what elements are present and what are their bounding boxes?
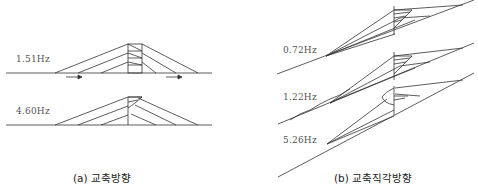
mode-shape-diagram [0,0,478,191]
caption-a: (a) 교축방향 [73,170,131,185]
mode-shape-b2 [278,43,474,124]
frequency-label-a2: 4.60Hz [16,106,50,116]
frequency-label-b2: 1.22Hz [283,92,317,102]
frequency-label-a1: 1.51Hz [16,54,50,64]
mode-shape-b1 [277,0,474,74]
frequency-label-b1: 0.72Hz [283,45,317,55]
caption-b: (b) 교축직각방향 [334,170,412,185]
frequency-label-b3: 5.26Hz [283,135,317,145]
arrow-icon [66,75,182,79]
mode-shape-b3 [278,73,474,177]
